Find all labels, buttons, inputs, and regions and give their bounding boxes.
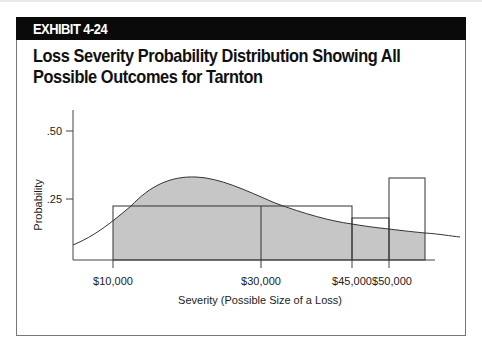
- x-axis-label: Severity (Possible Size of a Loss): [178, 294, 342, 306]
- x-tick-label-10000: $10,000: [93, 275, 133, 287]
- y-axis-label: Probability: [32, 179, 44, 231]
- shaded-area: [113, 170, 425, 260]
- y-tick-label-25: .25: [47, 193, 62, 205]
- y-tick-label-50: .50: [47, 125, 62, 137]
- chart-area: .50 .25 Probability $10,000 $30,000 $45,…: [0, 0, 482, 351]
- x-tick-label-45000: $45,000: [332, 275, 372, 287]
- x-tick-label-50000: $50,000: [372, 275, 412, 287]
- x-tick-label-30000: $30,000: [241, 275, 281, 287]
